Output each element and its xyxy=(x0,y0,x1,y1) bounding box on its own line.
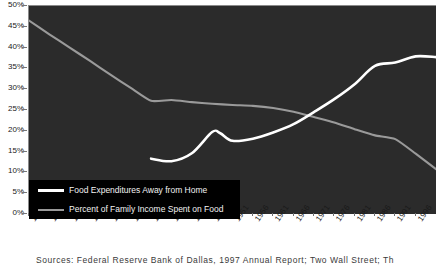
source-note: Sources: Federal Reserve Bank of Dallas,… xyxy=(36,256,435,265)
x-tick-mark xyxy=(252,213,253,216)
x-tick-mark xyxy=(374,213,375,216)
y-tick-mark xyxy=(22,151,27,152)
series-group xyxy=(29,21,436,170)
y-tick-mark xyxy=(22,88,27,89)
y-axis: 50%45%40%35%30%25%20%15%10%5%0% xyxy=(0,0,28,214)
y-tick-mark xyxy=(22,109,27,110)
x-tick-mark xyxy=(313,213,314,216)
y-tick-mark xyxy=(22,67,27,68)
legend-item-label: Food Expenditures Away from Home xyxy=(69,186,207,195)
legend-swatch-icon xyxy=(38,209,64,211)
y-tick-mark xyxy=(22,26,27,27)
y-tick-mark xyxy=(22,47,27,48)
y-tick-mark xyxy=(22,130,27,131)
chart-legend: Food Expenditures Away from Home Percent… xyxy=(29,180,240,219)
series-line-family-income xyxy=(29,21,436,170)
y-tick-mark xyxy=(22,192,27,193)
legend-item-label: Percent of Family Income Spent on Food xyxy=(69,205,224,214)
series-line-away-from-home xyxy=(151,56,436,161)
legend-item-away-from-home: Food Expenditures Away from Home xyxy=(29,181,207,200)
x-tick-mark xyxy=(415,213,416,216)
legend-swatch-icon xyxy=(38,189,64,192)
y-tick-mark xyxy=(22,213,27,214)
x-tick-mark xyxy=(354,213,355,216)
x-tick-mark xyxy=(293,213,294,216)
legend-item-family-income: Percent of Family Income Spent on Food xyxy=(29,200,224,219)
y-tick-mark xyxy=(22,5,27,6)
y-tick-mark xyxy=(22,171,27,172)
